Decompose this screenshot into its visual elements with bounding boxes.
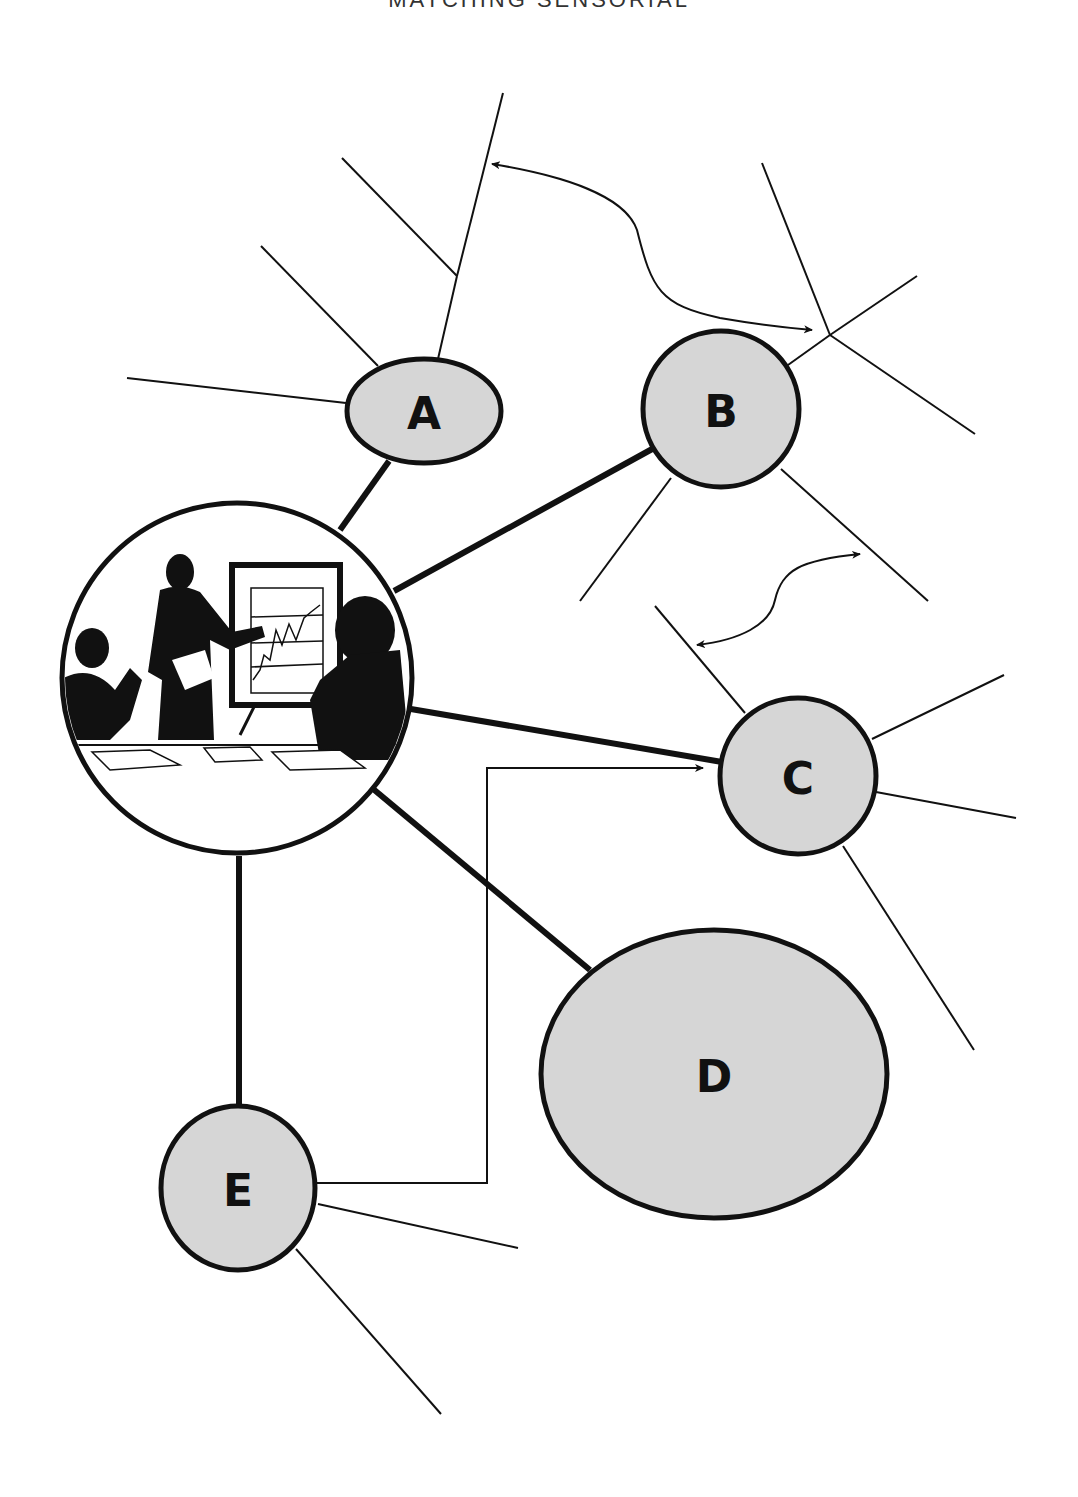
node-b[interactable]: B bbox=[643, 331, 799, 487]
branch-a-1 bbox=[127, 378, 346, 403]
branch-b-1c bbox=[830, 335, 975, 434]
connector-center-d bbox=[372, 788, 590, 970]
node-a[interactable]: A bbox=[347, 359, 501, 463]
node-e-label: E bbox=[223, 1165, 253, 1216]
node-a-label: A bbox=[407, 388, 441, 439]
branch-a-3-extension bbox=[457, 93, 503, 276]
connector-center-a bbox=[340, 461, 389, 530]
branch-b-1b bbox=[830, 276, 917, 335]
branch-a-3 bbox=[438, 276, 457, 359]
center-illustration bbox=[60, 503, 420, 853]
node-c[interactable]: C bbox=[720, 698, 876, 854]
node-b-label: B bbox=[704, 386, 738, 437]
curved-arrow-a-b bbox=[492, 164, 812, 330]
branch-c-1 bbox=[655, 606, 745, 713]
branch-b-3 bbox=[781, 469, 928, 601]
branch-e-2 bbox=[296, 1249, 441, 1414]
branch-a-4 bbox=[342, 158, 457, 276]
branch-c-2 bbox=[872, 675, 1004, 739]
node-e[interactable]: E bbox=[161, 1106, 315, 1270]
branch-c-3 bbox=[876, 792, 1016, 818]
branch-b-2 bbox=[580, 478, 671, 601]
node-c-label: C bbox=[782, 753, 814, 804]
mind-map-diagram: A B C D E bbox=[0, 0, 1078, 1497]
branch-b-1 bbox=[788, 335, 830, 365]
curved-arrow-b-c bbox=[697, 554, 860, 645]
branch-b-1a bbox=[762, 163, 830, 335]
connector-center-b bbox=[394, 448, 654, 591]
branch-a-2 bbox=[261, 246, 378, 366]
node-d-label: D bbox=[696, 1051, 733, 1102]
branch-e-1 bbox=[318, 1204, 518, 1248]
connector-center-c bbox=[405, 708, 722, 762]
node-d[interactable]: D bbox=[541, 930, 887, 1218]
